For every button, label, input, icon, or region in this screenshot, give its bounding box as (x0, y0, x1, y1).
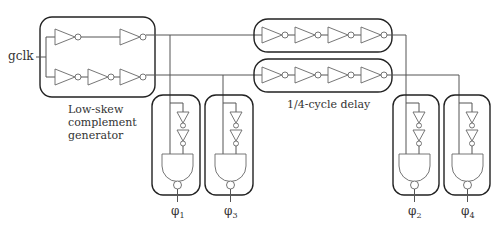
delay-label: 1/4-cycle delay (287, 98, 370, 111)
phase-unit-phi3 (205, 95, 253, 202)
delay-block (254, 19, 392, 92)
phase-unit-phi2 (393, 95, 439, 202)
complement-generator-block (36, 17, 155, 97)
clock-phase-generator-diagram: gclk Low-skew complement generator 1/4-c… (0, 0, 501, 230)
label-line: complement (68, 116, 137, 129)
phase-unit-phi1 (152, 95, 200, 202)
phase-unit-phi4 (444, 95, 490, 202)
phi-subscript: 1 (179, 211, 184, 220)
phi-subscript: 4 (469, 211, 474, 220)
output-label-phi3: φ3 (224, 204, 238, 220)
output-label-phi4: φ4 (461, 204, 475, 220)
label-line: Low-skew (68, 103, 137, 116)
output-label-phi2: φ2 (408, 204, 422, 220)
output-label-phi1: φ1 (171, 204, 185, 220)
complement-generator-label: Low-skew complement generator (68, 103, 137, 142)
label-line: generator (68, 129, 137, 142)
phi-subscript: 3 (232, 211, 237, 220)
phi-subscript: 2 (416, 211, 421, 220)
gclk-label: gclk (8, 50, 34, 63)
